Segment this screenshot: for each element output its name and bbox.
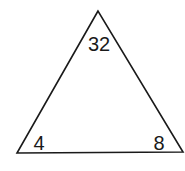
bottom-right-vertex-label: 8 <box>153 132 164 154</box>
top-vertex-label: 32 <box>88 33 110 55</box>
triangle-diagram: 32 4 8 <box>0 0 185 171</box>
bottom-left-vertex-label: 4 <box>33 132 44 154</box>
